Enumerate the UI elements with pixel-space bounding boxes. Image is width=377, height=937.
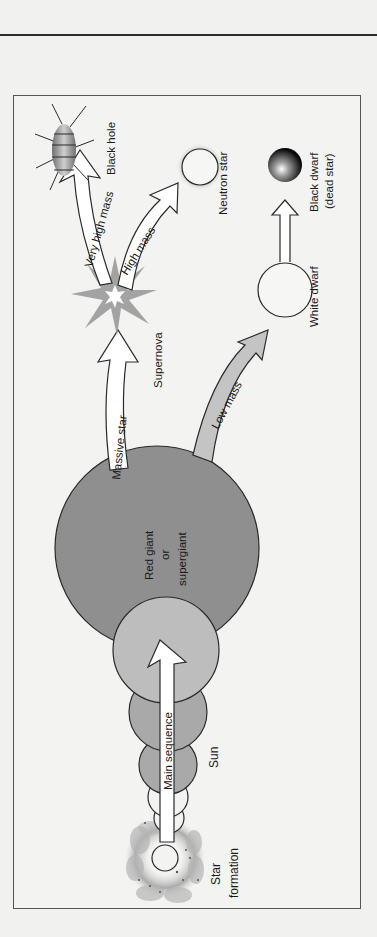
label-star-formation-1: Star: [209, 863, 223, 885]
supernova-burst-icon: [71, 256, 157, 336]
label-black-dwarf-1: Black dwarf: [308, 152, 320, 212]
label-main-sequence: Main sequence: [162, 712, 174, 790]
label-red-giant-1: Red giant: [143, 530, 155, 580]
cooling-arrow: [272, 200, 298, 262]
label-sun: Sun: [207, 747, 221, 768]
stellar-evolution-diagram: Star formation Sun Main sequence Red gia…: [0, 0, 377, 937]
label-red-giant-2: or: [159, 550, 171, 560]
white-dwarf-icon: [258, 263, 312, 317]
label-neutron-star: Neutron star: [217, 152, 229, 215]
black-dwarf-icon: [268, 148, 302, 182]
label-black-hole: Black hole: [105, 122, 117, 175]
label-star-formation-2: formation: [227, 848, 241, 898]
label-red-giant-3: supergiant: [176, 531, 188, 586]
label-white-dwarf: White dwarf: [308, 265, 320, 327]
label-supernova: Supernova: [152, 332, 164, 388]
label-black-dwarf-2: (dead star): [323, 153, 335, 209]
